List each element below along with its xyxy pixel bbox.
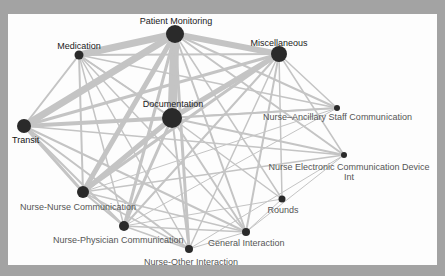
node-doc xyxy=(162,108,182,128)
node-label-nurse-physician: Nurse-Physician Communication xyxy=(53,235,184,245)
node-nas xyxy=(334,105,340,111)
node-label-general-interaction: General Interaction xyxy=(208,238,285,248)
edge-tr-mis xyxy=(24,54,279,126)
node-label-nurse-nurse: Nurse-Nurse Communication xyxy=(20,202,136,212)
edge-layer xyxy=(24,34,344,249)
node-med xyxy=(75,51,84,60)
edge-pm-nn xyxy=(83,34,175,192)
node-no xyxy=(185,245,193,253)
node-pm xyxy=(166,25,184,43)
node-np xyxy=(119,221,129,231)
node-mis xyxy=(271,46,287,62)
node-tr xyxy=(17,119,31,133)
edge-med-mis xyxy=(79,54,279,55)
node-ned xyxy=(341,152,347,158)
node-label-medication: Medication xyxy=(57,41,101,51)
node-label-nurse-other: Nurse-Other Interaction xyxy=(144,257,238,267)
node-label-miscellaneous: Miscellaneous xyxy=(250,38,307,48)
node-label-nurse-electronic-device-line1: Nurse Electronic Communication Device xyxy=(268,162,429,172)
node-label-transit: Transit xyxy=(12,135,39,145)
node-label-nurse-electronic-device-line2: Int xyxy=(344,172,354,182)
node-gi xyxy=(242,228,250,236)
node-ro xyxy=(279,196,286,203)
edge-tr-med xyxy=(24,55,79,126)
node-label-nurse-electronic-device: Nurse Electronic Communication Device In… xyxy=(268,162,429,182)
node-nn xyxy=(77,186,89,198)
node-label-rounds: Rounds xyxy=(267,205,298,215)
node-label-documentation: Documentation xyxy=(143,99,204,109)
node-label-patient-monitoring: Patient Monitoring xyxy=(140,16,213,26)
node-label-nurse-ancillary: Nurse–Ancillary Staff Communication xyxy=(263,112,412,122)
